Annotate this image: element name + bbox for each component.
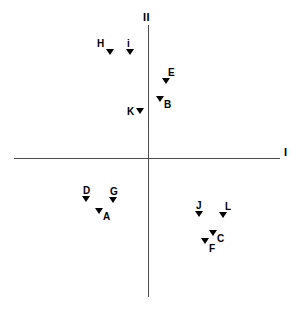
down-triangle-marker-icon xyxy=(209,230,217,236)
data-point-label: J xyxy=(196,201,202,211)
down-triangle-marker-icon xyxy=(95,208,103,214)
down-triangle-marker-icon xyxy=(126,49,134,55)
data-point-label: A xyxy=(103,212,110,222)
down-triangle-marker-icon xyxy=(82,196,90,202)
data-point-label: E xyxy=(168,68,175,78)
down-triangle-marker-icon xyxy=(195,211,203,217)
down-triangle-marker-icon xyxy=(156,96,164,102)
x-axis-line xyxy=(14,158,280,159)
down-triangle-marker-icon xyxy=(162,78,170,84)
data-point-label: D xyxy=(83,186,90,196)
data-point-label: G xyxy=(110,187,118,197)
y-axis-label: II xyxy=(143,12,150,23)
down-triangle-marker-icon xyxy=(136,108,144,114)
scatter-plot-canvas: I II HiEBKDGAJLCF xyxy=(0,0,300,312)
data-point-label: K xyxy=(127,107,134,117)
data-point-label: H xyxy=(97,39,104,49)
y-axis-line xyxy=(148,25,149,297)
x-axis-label: I xyxy=(284,147,288,158)
down-triangle-marker-icon xyxy=(201,238,209,244)
data-point-label: F xyxy=(209,244,215,254)
data-point-label: L xyxy=(225,202,231,212)
data-point-label: B xyxy=(164,100,171,110)
down-triangle-marker-icon xyxy=(219,212,227,218)
data-point-label: C xyxy=(217,234,224,244)
down-triangle-marker-icon xyxy=(109,197,117,203)
down-triangle-marker-icon xyxy=(106,49,114,55)
data-point-label: i xyxy=(127,39,130,49)
